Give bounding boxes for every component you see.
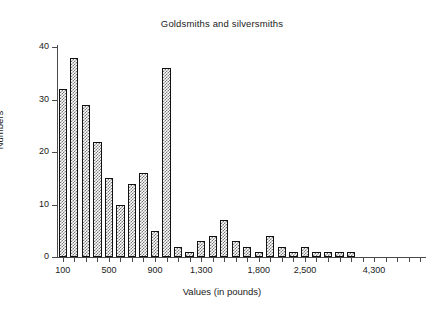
histogram-bar [128,184,136,258]
x-axis-tick [293,257,294,262]
y-axis-tick-label: 30 [20,94,49,104]
x-axis-tick [340,257,341,262]
histogram-bar [151,231,159,257]
x-axis-tick-label: 1,300 [190,265,213,275]
histogram-bar [185,252,193,257]
x-axis-tick [420,257,421,262]
histogram-bar [105,178,113,257]
histogram-bar [312,252,320,257]
x-axis-tick [178,257,179,262]
x-axis-tick [351,257,352,262]
x-axis-tick [190,257,191,262]
x-axis-tick [386,257,387,262]
x-axis-tick [305,257,306,262]
histogram-bar [209,236,217,257]
x-axis-tick [270,257,271,262]
histogram-bar [162,68,170,257]
x-axis-tick-label: 2,500 [294,265,317,275]
histogram-bar [116,205,124,258]
x-axis-tick-label: 500 [101,265,116,275]
x-axis-tick-label: 100 [55,265,70,275]
x-axis-tick-label: 1,800 [248,265,271,275]
histogram-bar [93,142,101,258]
x-axis-tick [167,257,168,262]
x-axis-tick [397,257,398,262]
x-axis-tick [74,257,75,262]
histogram-bar [220,220,228,257]
x-axis-tick-label: 900 [148,265,163,275]
x-axis-tick [374,257,375,262]
histogram-bar [301,247,309,258]
bars-layer [57,47,426,257]
y-axis-tick-label: 0 [20,251,49,261]
y-axis-title: Numbers [0,111,5,150]
x-axis-tick [363,257,364,262]
histogram-bar [232,241,240,257]
y-axis-tick-label: 10 [20,199,49,209]
x-axis-tick [282,257,283,262]
x-axis-tick [259,257,260,262]
x-axis-tick [247,257,248,262]
x-axis-tick [201,257,202,262]
x-axis-tick [328,257,329,262]
x-axis-tick-label: 4,300 [363,265,386,275]
x-axis-line [57,257,426,258]
histogram-bar [70,58,78,258]
histogram-bar [59,89,67,257]
y-axis-tick-label: 40 [20,41,49,51]
y-axis-tick-label: 20 [20,146,49,156]
x-axis-tick [409,257,410,262]
x-axis-tick [109,257,110,262]
histogram-bar [174,247,182,258]
x-axis-tick [97,257,98,262]
histogram-bar [266,236,274,257]
y-axis-tick [52,257,57,258]
histogram-bar [243,247,251,258]
chart-title: Goldsmiths and silversmiths [0,18,444,29]
histogram-bar [347,252,355,257]
histogram-bar [335,252,343,257]
histogram-bar [197,241,205,257]
histogram-bar [82,105,90,257]
x-axis-tick [132,257,133,262]
x-axis-tick [236,257,237,262]
x-axis-tick [63,257,64,262]
x-axis-tick [143,257,144,262]
x-axis-tick [120,257,121,262]
histogram-figure: Goldsmiths and silversmiths Numbers Valu… [0,0,444,316]
x-axis-tick [213,257,214,262]
x-axis-title: Values (in pounds) [0,286,444,297]
histogram-bar [139,173,147,257]
histogram-bar [255,252,263,257]
x-axis-tick [224,257,225,262]
x-axis-tick [155,257,156,262]
x-axis-tick [316,257,317,262]
x-axis-tick [86,257,87,262]
histogram-bar [324,252,332,257]
histogram-bar [289,252,297,257]
histogram-bar [278,247,286,258]
